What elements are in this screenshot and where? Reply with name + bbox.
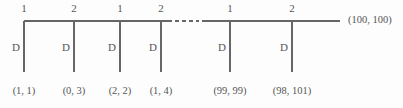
node-index-label-2: 1 xyxy=(117,3,123,14)
leaf-pair-label-0: (1, 1) xyxy=(13,86,36,97)
leaf-pair-label-4: (99, 99) xyxy=(213,86,246,97)
node-index-label-4: 1 xyxy=(227,3,233,14)
node-index-label-0: 1 xyxy=(21,3,27,14)
leaf-pair-label-2: (2, 2) xyxy=(109,86,132,97)
node-index-label-3: 2 xyxy=(158,3,164,14)
branch-rule-label-3: D xyxy=(149,42,157,53)
node-index-label-1: 2 xyxy=(71,3,77,14)
node-index-label-5: 2 xyxy=(289,3,295,14)
leaf-pair-label-5: (98, 101) xyxy=(273,86,312,97)
branch-rule-label-2: D xyxy=(108,42,116,53)
branch-rule-label-1: D xyxy=(62,42,70,53)
leaf-pair-label-1: (0, 3) xyxy=(63,86,86,97)
branch-rule-label-4: D xyxy=(218,42,226,53)
branch-rule-label-5: D xyxy=(280,42,288,53)
branch-rule-label-0: D xyxy=(12,42,20,53)
diagram-lines-layer xyxy=(0,0,403,108)
trunk-end-label: (100, 100) xyxy=(348,15,392,26)
derivation-tree-diagram: (100, 100) 1D(1, 1)2D(0, 3)1D(2, 2)2D(1,… xyxy=(0,0,403,108)
leaf-pair-label-3: (1, 4) xyxy=(150,86,173,97)
